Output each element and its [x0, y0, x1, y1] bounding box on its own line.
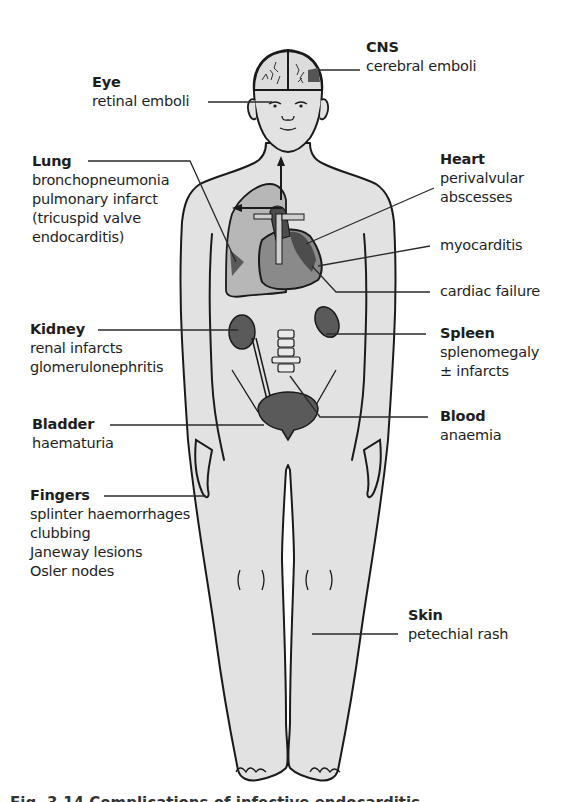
- label-skin-line: petechial rash: [408, 625, 508, 644]
- figure-caption: Fig. 3.14 Complications of infective end…: [10, 792, 420, 802]
- label-fingers-title: Fingers: [30, 486, 190, 505]
- label-myocarditis: myocarditis: [440, 236, 522, 255]
- label-spleen-line: ± infarcts: [440, 362, 539, 381]
- label-fingers-line: clubbing: [30, 524, 190, 543]
- label-lung-line: bronchopneumonia: [32, 171, 169, 190]
- label-myocarditis-line: myocarditis: [440, 236, 522, 255]
- label-cns-line: cerebral emboli: [366, 57, 476, 76]
- label-kidney: Kidney renal infarcts glomerulonephritis: [30, 320, 163, 377]
- label-spleen-title: Spleen: [440, 324, 539, 343]
- label-kidney-line: renal infarcts: [30, 339, 163, 358]
- label-heart-title: Heart: [440, 150, 524, 169]
- label-skin: Skin petechial rash: [408, 606, 508, 644]
- label-cardiac-failure: cardiac failure: [440, 282, 540, 301]
- label-blood-line: anaemia: [440, 426, 502, 445]
- label-bladder-title: Bladder: [32, 415, 114, 434]
- label-eye-line: retinal emboli: [92, 92, 189, 111]
- kidney-left: [229, 315, 255, 349]
- label-lung-title: Lung: [32, 152, 169, 171]
- label-blood-title: Blood: [440, 407, 502, 426]
- label-cardiac-failure-line: cardiac failure: [440, 282, 540, 301]
- label-spleen: Spleen splenomegaly ± infarcts: [440, 324, 539, 381]
- label-cns: CNS cerebral emboli: [366, 38, 476, 76]
- label-bladder-line: haematuria: [32, 434, 114, 453]
- label-blood: Blood anaemia: [440, 407, 502, 445]
- label-lung: Lung bronchopneumonia pulmonary infarct …: [32, 152, 169, 247]
- label-kidney-title: Kidney: [30, 320, 163, 339]
- label-bladder: Bladder haematuria: [32, 415, 114, 453]
- label-lung-line: (tricuspid valve: [32, 209, 169, 228]
- label-heart-line: abscesses: [440, 188, 524, 207]
- label-fingers-line: Janeway lesions: [30, 543, 190, 562]
- label-spleen-line: splenomegaly: [440, 343, 539, 362]
- label-heart-line: perivalvular: [440, 169, 524, 188]
- label-kidney-line: glomerulonephritis: [30, 358, 163, 377]
- label-cns-title: CNS: [366, 38, 476, 57]
- body-diagram: .ol { stroke:#1a1a1a; stroke-width:2; fi…: [0, 0, 572, 802]
- label-fingers-line: Osler nodes: [30, 562, 190, 581]
- label-eye-title: Eye: [92, 73, 189, 92]
- label-lung-line: pulmonary infarct: [32, 190, 169, 209]
- label-fingers: Fingers splinter haemorrhages clubbing J…: [30, 486, 190, 581]
- label-eye: Eye retinal emboli: [92, 73, 189, 111]
- label-lung-line: endocarditis): [32, 228, 169, 247]
- label-fingers-line: splinter haemorrhages: [30, 505, 190, 524]
- label-skin-title: Skin: [408, 606, 508, 625]
- label-heart: Heart perivalvular abscesses: [440, 150, 524, 207]
